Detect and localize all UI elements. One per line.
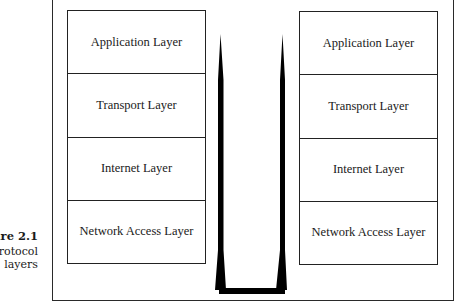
communication-path-connector	[0, 0, 452, 305]
